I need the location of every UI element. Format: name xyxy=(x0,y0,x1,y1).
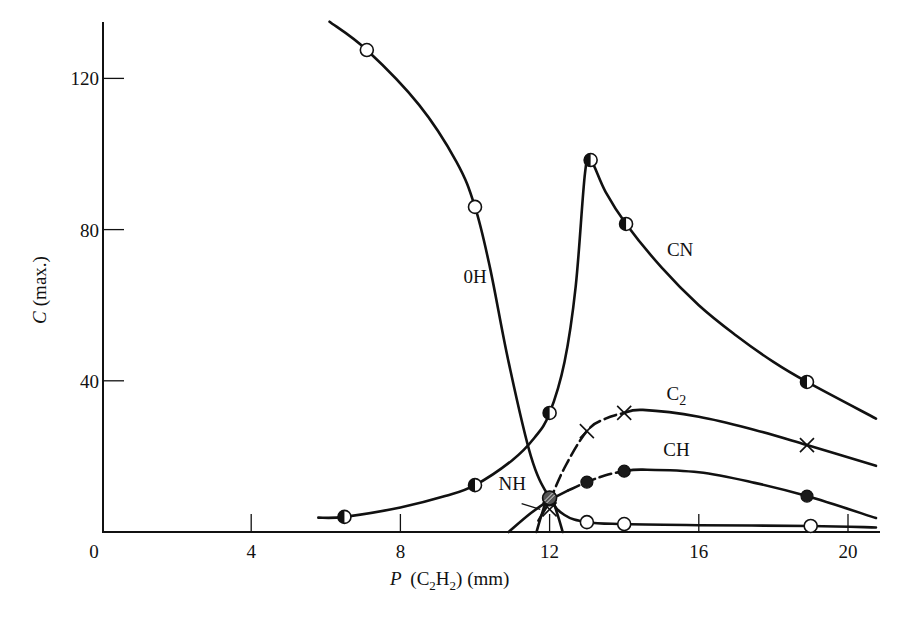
curve-label-ch: CH xyxy=(663,439,690,460)
open-circle-icon xyxy=(804,519,817,532)
ch-curve-dashed xyxy=(568,471,624,490)
ch-data-point xyxy=(801,490,813,502)
cn-data-point xyxy=(338,510,351,523)
cn-curve xyxy=(318,157,876,518)
curve-label-c2: C2 xyxy=(667,383,687,408)
oh-data-point xyxy=(469,200,482,213)
x-label-part: (C xyxy=(410,568,429,590)
x-label-part: ) (mm) xyxy=(456,568,509,590)
oh-data-point xyxy=(618,518,631,531)
y-ticks: 4080120 xyxy=(71,68,125,391)
x-tick-label: 4 xyxy=(246,541,256,562)
oh-data-point xyxy=(580,516,593,529)
c2-data-point xyxy=(580,424,594,438)
y-tick-label: 80 xyxy=(80,220,99,241)
nh-pointer-arrow xyxy=(522,504,541,510)
y-axis-label: C(max.) xyxy=(29,256,51,324)
oh-curve xyxy=(330,22,876,528)
oh-data-point xyxy=(360,44,373,57)
open-circle-icon xyxy=(360,44,373,57)
hatched-circle-icon xyxy=(543,491,557,505)
x-tick-label: 20 xyxy=(839,541,858,562)
curve-labels: 0HCNC2CHNH xyxy=(463,239,693,494)
x-axis-label: P (C2H2) (mm) xyxy=(389,568,509,593)
chart-canvas: 48121620 4080120 0HCNC2CHNH 0 P (C2H2) (… xyxy=(0,0,903,621)
origin-label: 0 xyxy=(89,541,99,562)
curve-label-cn: CN xyxy=(667,239,694,260)
nh-data-point xyxy=(543,491,557,505)
x-label-var: P xyxy=(389,568,402,589)
ch-curve xyxy=(624,470,876,518)
x-tick-label: 8 xyxy=(396,541,406,562)
c2-curve xyxy=(624,410,876,466)
ch-data-point xyxy=(581,476,593,488)
series-markers xyxy=(338,44,817,533)
y-label-rest: (max.) xyxy=(29,256,51,306)
x-ticks: 48121620 xyxy=(246,514,857,562)
y-tick-label: 40 xyxy=(80,371,99,392)
x-label-part: H xyxy=(436,568,450,589)
cn-data-point xyxy=(543,406,556,419)
curve-label-nh: NH xyxy=(499,473,527,494)
series-curves xyxy=(318,22,876,532)
open-circle-icon xyxy=(580,516,593,529)
c2-data-point xyxy=(800,438,814,452)
cn-data-point xyxy=(469,479,482,492)
cn-data-point xyxy=(584,154,597,167)
curve-label-0h: 0H xyxy=(463,266,487,287)
filled-circle-icon xyxy=(581,476,593,488)
filled-circle-icon xyxy=(618,465,630,477)
open-circle-icon xyxy=(618,518,631,531)
y-label-var: C xyxy=(29,311,50,324)
open-circle-icon xyxy=(469,200,482,213)
cn-data-point xyxy=(620,217,633,230)
ch-data-point xyxy=(618,465,630,477)
c2-data-point xyxy=(617,406,631,420)
filled-circle-icon xyxy=(801,490,813,502)
x-tick-label: 12 xyxy=(540,541,559,562)
cn-data-point xyxy=(800,375,813,388)
x-tick-label: 16 xyxy=(689,541,708,562)
oh-data-point xyxy=(804,519,817,532)
y-tick-label: 120 xyxy=(71,68,100,89)
